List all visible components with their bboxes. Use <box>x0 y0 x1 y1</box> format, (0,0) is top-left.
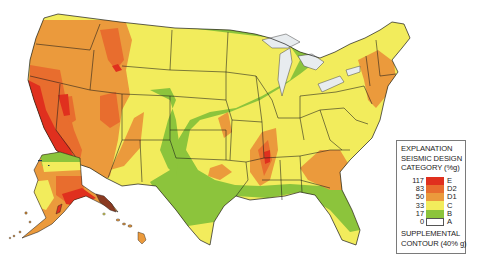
hawaii <box>103 213 146 244</box>
legend-value: 0 <box>407 217 426 227</box>
legend-swatch-a <box>426 218 444 226</box>
legend-scale: 117 E 83 D2 50 D1 33 C 17 B 0 A <box>407 177 463 226</box>
legend-swatch-e <box>426 177 444 185</box>
legend-swatch-b <box>426 210 444 218</box>
legend-title-line2: SEISMIC DESIGN <box>401 154 463 164</box>
legend-swatch-d2 <box>426 185 444 193</box>
legend-swatch-d1 <box>426 193 444 201</box>
legend-title-line3: CATEGORY (%g) <box>401 163 463 173</box>
legend-footer-line1: SUPPLEMENTAL <box>401 229 463 239</box>
legend-title-line1: EXPLANATION <box>401 144 463 154</box>
legend-footer-line2: CONTOUR (40% g) <box>401 239 463 249</box>
legend: EXPLANATION SEISMIC DESIGN CATEGORY (%g)… <box>396 140 466 254</box>
legend-row-a: 0 A <box>407 218 463 226</box>
legend-swatch-c <box>426 201 444 209</box>
legend-category: A <box>444 217 452 227</box>
